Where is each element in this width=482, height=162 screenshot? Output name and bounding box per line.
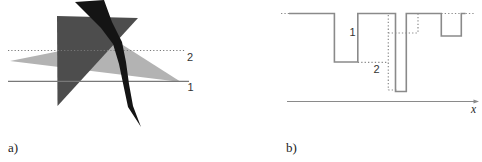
panel-b: 12x — [281, 14, 479, 116]
panel-a-caption: a) — [8, 141, 18, 154]
step-function-1 — [289, 14, 466, 92]
step-label-2: 2 — [374, 63, 380, 75]
panel-a: 21 — [8, 0, 194, 127]
figure-canvas: 21 12x a) b) — [0, 0, 482, 162]
cut-line-2-label: 2 — [187, 51, 193, 63]
figure-svg: 21 12x — [0, 0, 482, 162]
cut-line-1-label: 1 — [188, 81, 194, 93]
x-axis-label: x — [470, 103, 477, 115]
panel-b-caption: b) — [286, 141, 297, 154]
step-label-1: 1 — [350, 26, 356, 38]
